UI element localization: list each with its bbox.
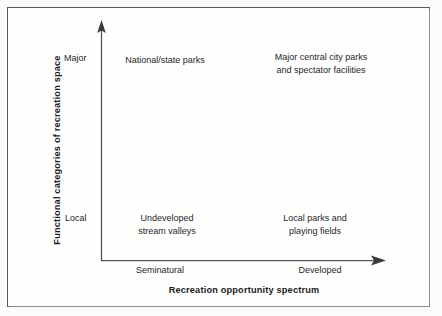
quadrant-label-upper-left: National/state parks xyxy=(110,54,220,67)
axes-group xyxy=(0,0,442,316)
figure-container: Functional categories of recreation spac… xyxy=(0,0,442,316)
quadrant-upper-right-line2: and spectator facilities xyxy=(260,64,382,77)
quadrant-lower-right-line1: Local parks and xyxy=(255,212,375,225)
quadrant-lower-left-line1: Undeveloped xyxy=(110,212,224,225)
x-axis-title: Recreation opportunity spectrum xyxy=(101,285,387,295)
x-tick-label-seminatural: Seminatural xyxy=(106,265,214,275)
y-tick-label-local: Local xyxy=(65,213,87,223)
y-axis-title: Functional categories of recreation spac… xyxy=(52,20,62,280)
quadrant-label-lower-right: Local parks and playing fields xyxy=(255,212,375,237)
quadrant-label-upper-right: Major central city parks and spectator f… xyxy=(260,51,382,76)
x-tick-label-developed: Developed xyxy=(266,265,374,275)
quadrant-lower-right-line2: playing fields xyxy=(255,225,375,238)
quadrant-upper-right-line1: Major central city parks xyxy=(260,51,382,64)
quadrant-label-lower-left: Undeveloped stream valleys xyxy=(110,212,224,237)
quadrant-upper-left-text: National/state parks xyxy=(125,55,205,65)
y-tick-label-major: Major xyxy=(64,53,87,63)
quadrant-lower-left-line2: stream valleys xyxy=(110,225,224,238)
